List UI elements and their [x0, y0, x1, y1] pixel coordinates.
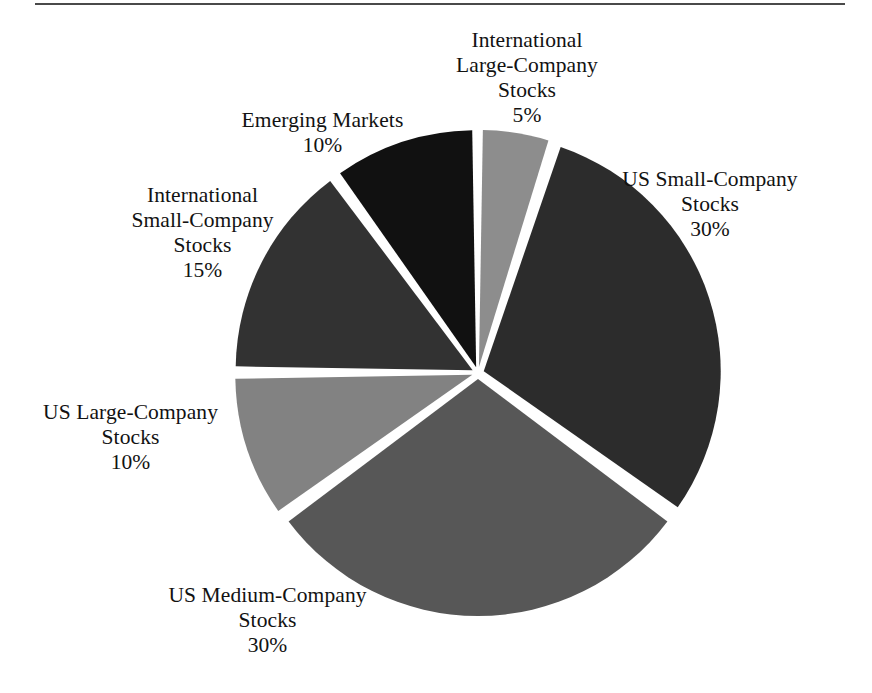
slice-label-us-medium-company: US Medium-Company Stocks 30%: [115, 583, 420, 658]
slice-label-line1: Emerging Markets: [242, 108, 404, 132]
slice-label-us-large-company: US Large-Company Stocks 10%: [8, 400, 253, 475]
slice-label-line2: Large-Company: [456, 53, 598, 77]
slice-label-international-large-company: International Large-Company Stocks 5%: [407, 28, 647, 129]
slice-label-line3: Stocks: [498, 78, 556, 102]
slice-label-line2: Stocks: [681, 192, 739, 216]
slice-label-us-small-company: US Small-Company Stocks 30%: [585, 167, 835, 242]
slice-percent: 10%: [205, 133, 440, 158]
slice-percent: 10%: [8, 450, 253, 475]
slice-label-line3: Stocks: [174, 233, 232, 257]
slice-label-international-small-company: International Small-Company Stocks 15%: [95, 183, 310, 284]
slice-label-line1: US Large-Company: [43, 400, 218, 424]
slice-label-line2: Small-Company: [131, 208, 273, 232]
slice-label-line1: US Small-Company: [622, 167, 797, 191]
slice-percent: 15%: [95, 258, 310, 283]
pie-chart-figure: International Large-Company Stocks 5% US…: [0, 0, 872, 693]
slice-percent: 30%: [115, 633, 420, 658]
slice-percent: 5%: [407, 103, 647, 128]
slice-label-line1: International: [471, 28, 582, 52]
slice-percent: 30%: [585, 217, 835, 242]
slice-label-line1: International: [147, 183, 258, 207]
slice-label-line2: Stocks: [239, 608, 297, 632]
slice-label-line2: Stocks: [102, 425, 160, 449]
slice-label-line1: US Medium-Company: [168, 583, 366, 607]
slice-label-emerging-markets: Emerging Markets 10%: [205, 108, 440, 158]
